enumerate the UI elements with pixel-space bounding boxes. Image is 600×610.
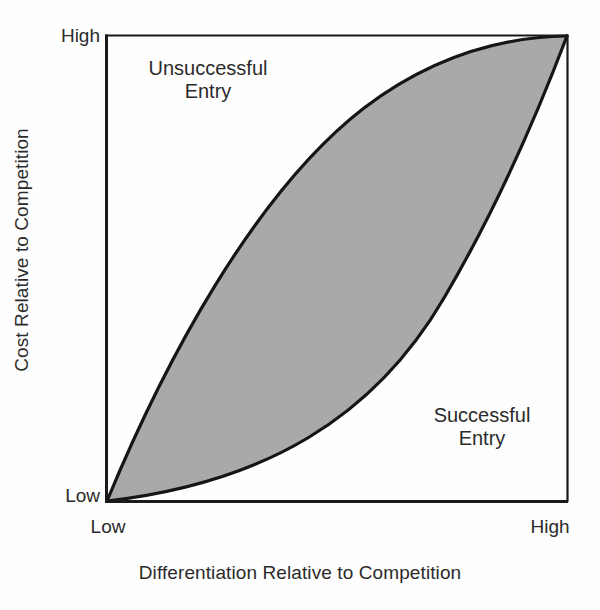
x-tick-label-high: High <box>520 516 580 538</box>
x-axis-title: Differentiation Relative to Competition <box>0 562 600 584</box>
y-tick-label-high: High <box>48 25 100 47</box>
y-axis-title-text: Cost Relative to Competition <box>11 128 33 372</box>
y-axis-title: Cost Relative to Competition <box>0 0 44 500</box>
figure-canvas: Cost Relative to Competition High Low Lo… <box>0 0 600 610</box>
region-label-unsuccessful-entry: Unsuccessful Entry <box>128 57 288 103</box>
y-tick-label-low: Low <box>48 485 100 507</box>
x-tick-label-low: Low <box>82 516 134 538</box>
region-label-successful-entry: Successful Entry <box>412 404 552 450</box>
